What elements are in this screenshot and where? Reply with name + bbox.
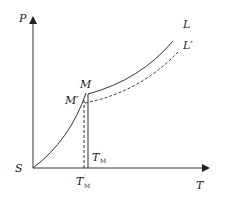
x-axis-label: T (196, 179, 205, 192)
curve-L-label: L (182, 18, 190, 31)
origin-label: S (15, 162, 23, 175)
svg-text:′: ′ (84, 173, 86, 180)
curve-L-prime (85, 52, 178, 103)
point-M-label: M (79, 78, 92, 91)
y-axis-label: P (18, 12, 27, 25)
curve-L-prime-label: L′ (182, 39, 193, 52)
T-M-label: T M (92, 151, 106, 164)
svg-text:M: M (84, 182, 90, 189)
T-M-prime-label: T ′ M (76, 173, 90, 189)
phase-diagram: P S T M M′ L L′ T M T ′ M (0, 0, 228, 202)
svg-text:M: M (100, 157, 106, 164)
curve-L (88, 41, 173, 94)
point-M-prime-label: M′ (64, 94, 79, 107)
